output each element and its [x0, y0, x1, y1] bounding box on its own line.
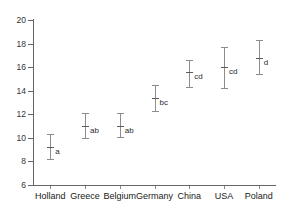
errorbar-lower-cap: [82, 138, 89, 139]
x-axis-tick: [155, 186, 156, 189]
errorbar-lower-cap: [117, 137, 124, 138]
significance-letter-germany: bc: [160, 99, 168, 107]
errorbar-whisker-line: [189, 60, 190, 87]
errorbar-upper-cap: [117, 113, 124, 114]
x-axis-tick-label-germany: Germany: [136, 192, 173, 201]
errorbar-upper-cap: [256, 40, 263, 41]
significance-letter-china: cd: [194, 73, 202, 81]
y-axis-tick-label: 14: [0, 87, 26, 96]
x-axis-tick-label-china: China: [177, 192, 201, 201]
y-axis-tick-label: 6: [0, 181, 26, 190]
x-axis-tick-label-holland: Holland: [35, 192, 66, 201]
errorbar-lower-cap: [256, 74, 263, 75]
x-axis-tick-label-belgium: Belgium: [104, 192, 137, 201]
errorbar-mean-marker: [256, 58, 263, 59]
errorbar-mean-marker: [152, 98, 159, 99]
errorbar-mean-marker: [186, 72, 193, 73]
x-axis-tick: [189, 186, 190, 189]
significance-letter-belgium: ab: [125, 127, 134, 135]
y-axis-tick: [28, 114, 33, 115]
errorbar-upper-cap: [152, 85, 159, 86]
errorbar-upper-cap: [186, 60, 193, 61]
errorbar-lower-cap: [152, 111, 159, 112]
errorbar-mean-marker: [47, 147, 54, 148]
y-axis-line: [33, 19, 34, 186]
significance-letter-holland: a: [55, 148, 59, 156]
y-axis-tick: [28, 161, 33, 162]
significance-letter-greece: ab: [90, 127, 99, 135]
x-axis-tick: [50, 186, 51, 189]
y-axis-tick-label: 10: [0, 134, 26, 143]
y-axis-tick-label: 18: [0, 40, 26, 49]
x-axis-tick-label-usa: USA: [215, 192, 234, 201]
errorbar-lower-cap: [221, 88, 228, 89]
errorbar-lower-cap: [186, 87, 193, 88]
errorbar-upper-cap: [47, 134, 54, 135]
chart-container: 68101214161820 HollandGreeceBelgiumGerma…: [0, 0, 288, 212]
errorbar-lower-cap: [47, 159, 54, 160]
x-axis-tick: [259, 186, 260, 189]
errorbar-mean-marker: [82, 126, 89, 127]
y-axis-tick: [28, 67, 33, 68]
significance-letter-poland: d: [264, 59, 268, 67]
x-axis-tick: [224, 186, 225, 189]
y-axis-tick: [28, 91, 33, 92]
x-axis-tick: [85, 186, 86, 189]
y-axis-tick-label: 12: [0, 110, 26, 119]
significance-letter-usa: cd: [229, 68, 237, 76]
errorbar-upper-cap: [221, 47, 228, 48]
y-axis-tick-label: 16: [0, 63, 26, 72]
y-axis-tick: [28, 20, 33, 21]
y-axis-tick: [28, 44, 33, 45]
x-axis-tick: [120, 186, 121, 189]
y-axis-tick: [28, 185, 33, 186]
y-axis-tick: [28, 138, 33, 139]
errorbar-mean-marker: [221, 67, 228, 68]
y-axis-tick-label: 8: [0, 157, 26, 166]
x-axis-tick-label-greece: Greece: [70, 192, 100, 201]
errorbar-upper-cap: [82, 113, 89, 114]
y-axis-tick-label: 20: [0, 16, 26, 25]
errorbar-mean-marker: [117, 126, 124, 127]
errorbar-whisker-line: [120, 113, 121, 137]
x-axis-tick-label-poland: Poland: [245, 192, 273, 201]
